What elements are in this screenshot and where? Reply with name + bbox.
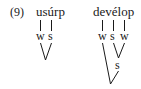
tree-lines	[0, 0, 141, 89]
